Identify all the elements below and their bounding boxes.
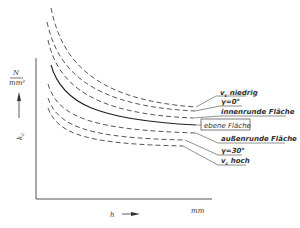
y-axis-arrow-icon	[17, 92, 21, 101]
x-axis-arrow-icon	[131, 212, 140, 216]
label-gamma-30: γ=30°	[221, 147, 245, 155]
x-axis-unit: mm	[191, 207, 205, 215]
curve-gamma-0	[47, 22, 195, 111]
label-ebene-flaeche: ebene Fläche	[204, 122, 251, 130]
label-gamma-0: γ=0°	[221, 98, 240, 106]
curve-gamma-30	[48, 98, 185, 140]
y-axis-unit-denominator: mm²	[9, 79, 25, 87]
svg-text:kc: kc	[16, 133, 25, 140]
x-axis-label: h	[110, 211, 115, 219]
y-axis-label: kc	[16, 133, 25, 140]
curve-vc-niedrig	[51, 8, 196, 107]
leader-innenrunde	[193, 116, 286, 118]
specific-cutting-force-diagram: N mm² kc h mm vc niedrig γ=0° innenru	[0, 0, 300, 228]
label-vc-hoch: vc hoch	[221, 157, 250, 166]
y-axis-unit-numerator: N	[12, 69, 20, 77]
label-vc-niedrig: vc niedrig	[220, 89, 258, 98]
label-innenrunde-flaeche: innenrunde Fläche	[221, 108, 295, 116]
label-aussenrunde-flaeche: außenrunde Fläche	[221, 135, 297, 143]
curve-innenrunde-flaeche	[48, 40, 193, 118]
curve-ebene-flaeche	[51, 65, 196, 125]
